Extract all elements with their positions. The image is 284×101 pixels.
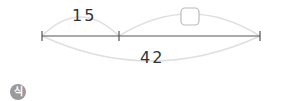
total-label: 42 — [140, 48, 164, 67]
expression-badge: 식 — [10, 84, 26, 100]
answer-box[interactable] — [181, 8, 199, 25]
left-segment-label: 15 — [72, 6, 96, 25]
